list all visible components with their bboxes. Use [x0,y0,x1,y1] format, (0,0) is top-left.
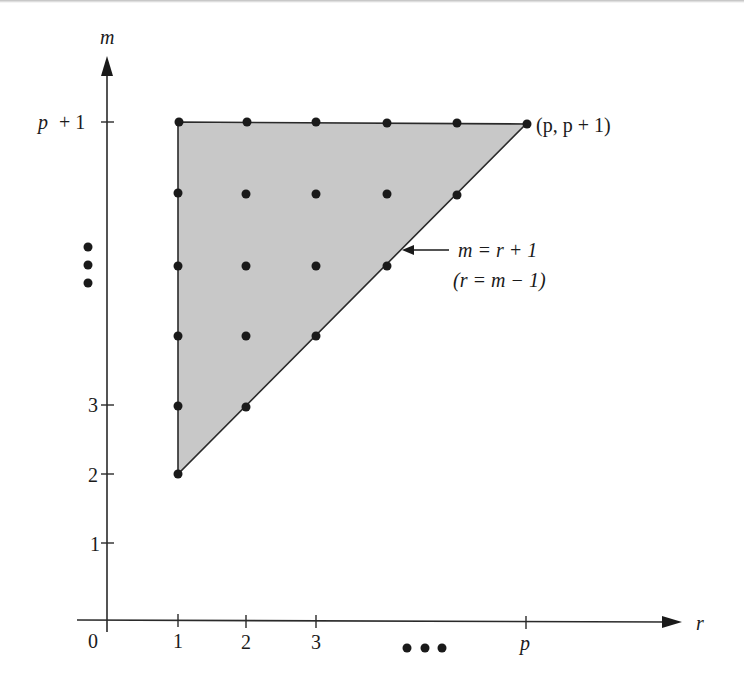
x-tick-label-1: 1 [173,630,183,652]
point-r3-m5 [312,262,321,271]
corner-point-label: (p, p + 1) [536,114,611,137]
point-r2-m6 [242,190,251,199]
point-r1-m2 [174,470,183,479]
point-r3-mp1 [312,118,321,127]
point-r2-m4 [242,332,251,341]
point-r1-m6 [174,189,183,198]
point-r2-m5 [242,262,251,271]
r-axis-label: r [696,612,704,634]
y-ellipsis-dots [84,243,93,288]
point-r4-m5 [383,262,392,271]
r-axis [77,620,668,622]
y-tick-label-1: 1 [90,533,100,555]
point-r2-m3 [242,403,251,412]
point-rp-mp1 [523,120,532,129]
m-axis-label: m [100,26,114,48]
point-r4-m6 [383,190,392,199]
line-equation-label: m = r + 1 [458,239,537,261]
point-r3-m6 [312,190,321,199]
point-r3-m4 [312,332,321,341]
line-equation-alt-label: (r = m − 1) [453,269,546,292]
m-axis-arrow-icon [101,56,113,76]
r-axis-arrow-icon [662,616,682,628]
x-tick-label-3: 3 [311,631,321,653]
lattice-triangle-diagram: m r p + 1 3 2 1 0 1 2 3 p [0,0,744,690]
point-r5-mp1 [453,119,462,128]
y-tick-label-p1: p + 1 [36,111,85,134]
origin-label: 0 [88,630,98,652]
point-r1-m4 [174,332,183,341]
point-r1-m3 [174,402,183,411]
point-r1-mp1 [175,118,184,127]
y-tick-label-2: 2 [88,464,98,486]
x-tick-label-2: 2 [241,631,251,653]
x-tick-label-p: p [518,632,530,655]
point-r1-m5 [174,262,183,271]
y-tick-label-3: 3 [88,394,98,416]
shaded-triangle-region [178,122,526,474]
point-r2-mp1 [243,118,252,127]
x-ellipsis-dots [403,644,447,653]
point-r4-mp1 [383,119,392,128]
point-r5-m6 [453,191,462,200]
